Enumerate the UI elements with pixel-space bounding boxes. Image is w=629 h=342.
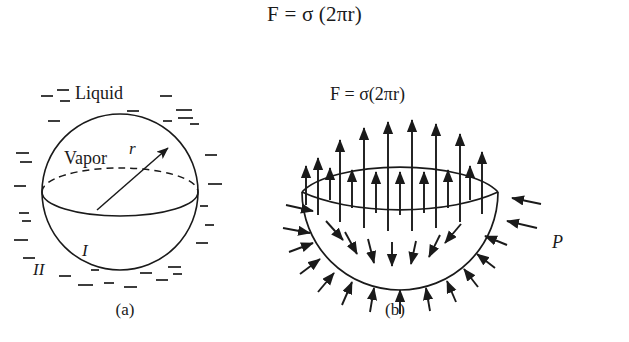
panel-a-graphic: Liquid Vapor r I II	[14, 83, 222, 287]
caption-panel-b: (b)	[345, 300, 445, 320]
equator-back-dashed	[42, 168, 198, 192]
figure-canvas: Liquid Vapor r I II	[0, 0, 629, 342]
caption-panel-a: (a)	[75, 300, 175, 320]
label-force-equation: F = σ(2πr)	[330, 84, 405, 105]
label-pressure: P	[551, 232, 563, 252]
liquid-dash-marks	[14, 90, 222, 287]
label-liquid: Liquid	[75, 83, 123, 103]
bubble-sphere-outline	[42, 114, 198, 270]
equator-front-solid	[42, 192, 198, 216]
figure-root: F = σ (2πr)	[0, 0, 629, 342]
panel-b-graphic: F = σ(2πr) P	[283, 84, 563, 314]
label-region-ii: II	[32, 260, 46, 279]
label-region-i: I	[81, 241, 89, 260]
label-vapor: Vapor	[64, 148, 107, 168]
label-radius: r	[129, 139, 136, 158]
